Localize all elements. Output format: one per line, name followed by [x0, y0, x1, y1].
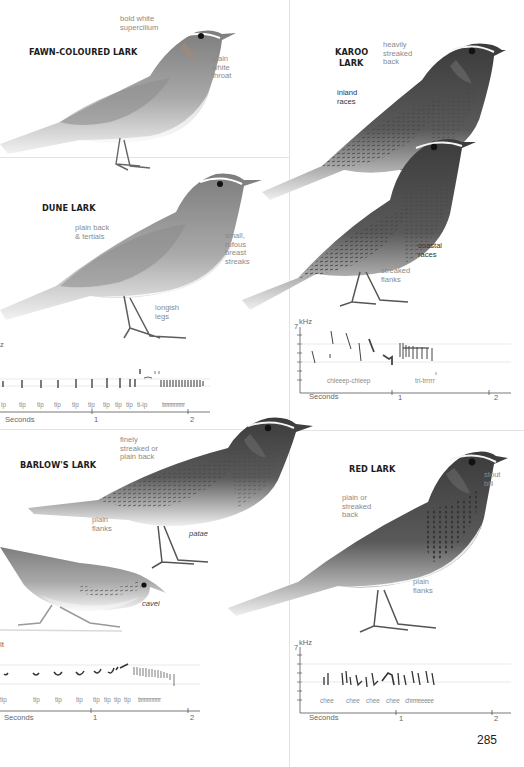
tick-label-2: 2 — [494, 393, 498, 402]
red-lark-sonogram-plot — [296, 645, 516, 715]
sonogram-unit-label: z — [0, 340, 4, 349]
tick-label-1: 1 — [93, 713, 97, 722]
tick-label-1: 1 — [398, 393, 402, 402]
syllable-label: tip — [88, 401, 95, 408]
syllable-label: tip — [0, 696, 7, 703]
syllable-label: tip — [114, 696, 121, 703]
note-plain-or-streaked-back: plain or streaked back — [342, 494, 371, 520]
species-name-karoo-lark-line1: KAROO — [335, 46, 368, 57]
seconds-axis-label: Seconds — [309, 713, 339, 722]
note-plain-back-tertials: plain back & tertials — [75, 224, 109, 241]
syllable-label: tip — [37, 401, 44, 408]
syllable-label: trrrrrrrrrrrrrr — [138, 696, 161, 703]
syllable-label: tip — [19, 401, 26, 408]
note-longish-legs: longish legs — [155, 304, 179, 321]
note-small-rufous-breast-streaks: small, rufous breast streaks — [225, 232, 249, 266]
right-horizontal-rule-mid — [289, 430, 524, 431]
syllable-label: chee — [366, 697, 380, 704]
syllable-label: tip — [93, 696, 100, 703]
sonogram-unit-label: lt — [0, 640, 4, 649]
species-name-red-lark: RED LARK — [349, 463, 395, 474]
syllable-label: tip — [126, 401, 133, 408]
syllable-label: tri-trrrrr — [415, 377, 435, 384]
seconds-axis-label: Seconds — [4, 713, 34, 722]
syllable-label: tip — [104, 696, 111, 703]
barlows-lark-sonogram-plot — [0, 662, 205, 714]
tick-label-2: 2 — [190, 713, 194, 722]
syllable-label: tip — [103, 401, 110, 408]
barlows-lark-cavei-illustration — [0, 545, 175, 635]
fawn-coloured-lark-illustration — [0, 18, 240, 178]
seconds-axis-label: Seconds — [309, 392, 339, 401]
species-name-dune-lark: DUNE LARK — [42, 202, 96, 213]
note-bold-white-supercilium: bold white supercilium — [120, 15, 158, 32]
tick-label-2: 2 — [494, 714, 498, 723]
karoo-lark-coastal-illustration — [240, 128, 480, 318]
syllable-label: chee — [346, 697, 360, 704]
note-plain-flanks-red: plain flanks — [413, 578, 433, 595]
page-number: 285 — [477, 733, 497, 747]
syllable-label: tip — [54, 401, 61, 408]
race-label-patae: patae — [189, 530, 208, 539]
note-plain-white-throat: plain white throat — [212, 55, 231, 81]
syllable-label: tip — [115, 401, 122, 408]
note-inland-races: inland races — [337, 89, 357, 106]
tick-label-1: 1 — [399, 714, 403, 723]
syllable-label: tip — [55, 696, 62, 703]
syllable-label: tip — [124, 696, 131, 703]
syllable-label: tip — [33, 696, 40, 703]
note-heavily-streaked-back: heavily streaked back — [383, 41, 412, 67]
syllable-label: chrrrreeeee — [405, 697, 434, 704]
syllable-label: chee — [320, 697, 334, 704]
note-finely-streaked-or-plain-back: finely streaked or plain back — [120, 436, 158, 462]
karoo-lark-sonogram-plot — [296, 325, 516, 395]
syllable-label: ti-ip — [137, 401, 147, 408]
syllable-label: tip — [72, 401, 79, 408]
species-name-barlows-lark: BARLOW'S LARK — [20, 459, 96, 470]
species-name-fawn-coloured-lark: FAWN-COLOURED LARK — [29, 46, 137, 57]
syllable-label: chleeep-chleep — [327, 377, 370, 384]
note-streaked-flanks: streaked flanks — [381, 267, 410, 284]
species-name-karoo-lark-line2: LARK — [339, 57, 363, 68]
syllable-label: trrrrrrrrrrrrrr — [162, 401, 185, 408]
syllable-label: tip — [76, 696, 83, 703]
note-stout-bill: stout bill — [484, 471, 500, 488]
syllable-label: ip — [1, 401, 6, 408]
note-plain-flanks: plain flanks — [92, 516, 112, 533]
race-label-cavei: cavei — [142, 600, 160, 609]
syllable-label: chee — [386, 697, 400, 704]
note-coastal-races: coastal races — [418, 242, 442, 259]
